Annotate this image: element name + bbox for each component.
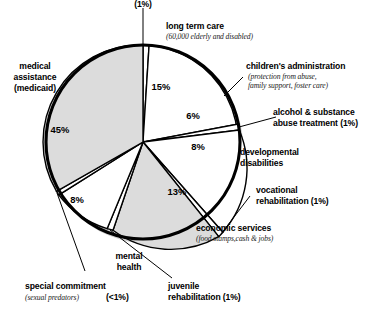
label-special-commitment-sublabel: (sexual predators)	[25, 294, 111, 303]
label-medical-assistance-line2: assistance	[2, 73, 68, 83]
pct-mental-health: 8%	[60, 194, 94, 205]
label-alcohol-substance-line2: abuse treatment (1%)	[273, 119, 378, 129]
label-medical-assistance-line1: medical	[2, 62, 68, 72]
label-vocational-rehabilitation-line1: vocational	[256, 186, 374, 196]
label-special-commitment-pct: (<1%)	[106, 293, 150, 303]
label-developmental-disabilities-line2: disabilities	[240, 159, 350, 169]
label-economic-services-sublabel: (food stamps,cash & jobs)	[196, 235, 326, 244]
label-long-term-care-sliver-pct: (1%)	[119, 0, 167, 10]
pct-medical-assistance: 45%	[34, 124, 86, 135]
label-special-commitment: special commitment	[25, 282, 155, 292]
label-juvenile-rehabilitation-line2: rehabilitation (1%)	[168, 293, 290, 303]
pct-childrens-administration: 6%	[177, 110, 209, 121]
label-economic-services: economic services	[196, 224, 316, 234]
label-mental-health-line2: health	[97, 263, 161, 273]
pct-long-term-care: 15%	[140, 81, 182, 92]
label-long-term-care: long term care	[166, 22, 306, 32]
label-childrens-administration: children's administration	[246, 62, 378, 72]
label-vocational-rehabilitation-line2: rehabilitation (1%)	[256, 197, 374, 207]
label-long-term-care-sublabel: (60,000 elderly and disabled)	[166, 33, 316, 42]
pie-chart-figure: 45% 15% 6% 8% 13% 8% (1%) long term care…	[0, 0, 378, 311]
label-developmental-disabilities-line1: developmental	[240, 148, 350, 158]
label-juvenile-rehabilitation-line1: juvenile	[168, 282, 290, 292]
label-mental-health-line1: mental	[97, 252, 161, 262]
pct-economic-services: 13%	[159, 186, 195, 197]
leader-line-childrens-administration	[224, 77, 243, 96]
pct-developmental-disabilities: 8%	[182, 141, 214, 152]
label-medical-assistance-line3: (medicaid)	[2, 84, 68, 94]
label-childrens-administration-sublabel-2: family support, foster care)	[248, 82, 376, 91]
label-alcohol-substance-line1: alcohol & substance	[273, 108, 378, 118]
leader-line-alcohol-substance	[239, 117, 276, 127]
